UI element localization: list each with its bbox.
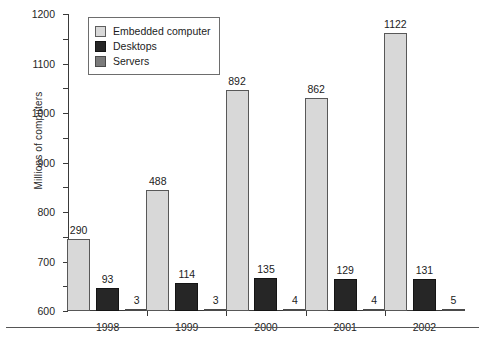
y-axis-tick-label: 600: [37, 305, 55, 317]
legend-swatch-icon: [95, 56, 106, 67]
x-axis-tick: [385, 311, 386, 316]
bar[interactable]: [204, 309, 227, 311]
legend-item-label: Embedded computer: [113, 25, 210, 37]
x-axis-tick: [306, 311, 307, 316]
legend-item[interactable]: Servers: [95, 54, 210, 68]
bar-value-label: 3: [213, 294, 219, 306]
bar-value-label: 488: [149, 175, 167, 187]
legend-item[interactable]: Embedded computer: [95, 24, 210, 38]
bar-group: 89213542000: [226, 14, 305, 311]
bar-value-label: 4: [292, 294, 298, 306]
y-axis-tick: 0: [63, 311, 68, 312]
x-axis-tick: [147, 311, 148, 316]
chart-legend: Embedded computerDesktopsServers: [88, 17, 220, 75]
legend-item-label: Servers: [113, 55, 149, 67]
bar[interactable]: [96, 288, 119, 311]
bar-value-label: 114: [178, 268, 195, 280]
footer-rule: [6, 327, 479, 328]
bar[interactable]: [283, 309, 306, 311]
bar-value-label: 135: [257, 263, 275, 275]
bar[interactable]: [175, 283, 198, 311]
y-axis-tick-label: 1100: [32, 58, 55, 70]
bar-value-label: 129: [336, 264, 354, 276]
bar[interactable]: [442, 309, 465, 311]
bar[interactable]: [384, 33, 407, 311]
bar[interactable]: [334, 279, 357, 311]
bar[interactable]: [305, 98, 328, 311]
bar-group: 86212942001: [306, 14, 385, 311]
bar[interactable]: [146, 190, 169, 311]
bar[interactable]: [125, 309, 148, 311]
bar[interactable]: [226, 90, 249, 311]
bar-value-label: 290: [70, 224, 88, 236]
bar-value-label: 3: [134, 294, 140, 306]
y-axis-tick-label: 1000: [32, 107, 55, 119]
bar-chart-figure: Millions of computers 010020030040050060…: [0, 0, 485, 345]
legend-swatch-icon: [95, 26, 106, 37]
y-axis-tick-label: 1200: [32, 8, 55, 20]
bar-value-label: 93: [102, 273, 114, 285]
legend-item-label: Desktops: [113, 40, 157, 52]
legend-item[interactable]: Desktops: [95, 39, 210, 53]
y-axis-tick-label: 700: [37, 256, 55, 268]
bar-group: 112213152002: [385, 14, 464, 311]
bar[interactable]: [67, 239, 90, 311]
bar-value-label: 131: [416, 264, 434, 276]
bar[interactable]: [413, 279, 436, 311]
bar-value-label: 892: [228, 75, 246, 87]
bar-value-label: 5: [450, 294, 456, 306]
y-axis-tick-label: 800: [37, 206, 55, 218]
bar-value-label: 1122: [384, 18, 407, 30]
bar[interactable]: [254, 278, 277, 311]
bar[interactable]: [363, 309, 386, 311]
legend-swatch-icon: [95, 41, 106, 52]
bar-value-label: 862: [307, 83, 325, 95]
bar-value-label: 4: [371, 294, 377, 306]
x-axis-tick: [226, 311, 227, 316]
y-axis-tick-label: 900: [37, 157, 55, 169]
